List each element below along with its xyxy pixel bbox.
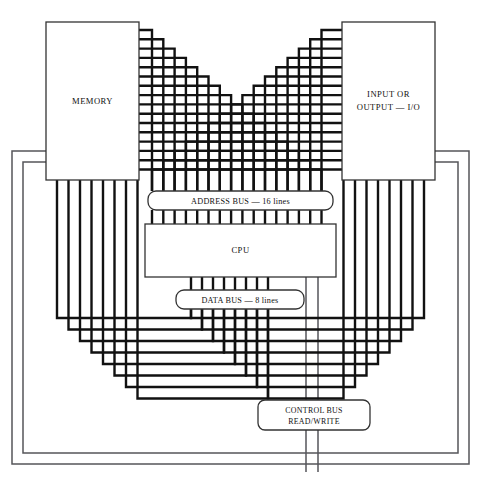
data-bus-bar[interactable]: DATA BUS — 8 lines: [176, 290, 304, 309]
io-block-box: [342, 22, 435, 180]
cpu-block[interactable]: CPU: [145, 224, 336, 277]
cpu-block-label: CPU: [231, 245, 250, 255]
memory-block-label: MEMORY: [72, 96, 113, 106]
control-bus-label-line2: READ/WRITE: [288, 417, 340, 426]
bus-architecture-diagram: MEMORY INPUT OR OUTPUT — I/O ADDRESS BUS…: [0, 0, 481, 483]
diagram-canvas: MEMORY INPUT OR OUTPUT — I/O ADDRESS BUS…: [0, 0, 481, 483]
address-bus-label: ADDRESS BUS — 16 lines: [191, 197, 290, 206]
io-block[interactable]: INPUT OR OUTPUT — I/O: [342, 22, 435, 180]
io-block-label-line2: OUTPUT — I/O: [357, 102, 421, 112]
memory-block[interactable]: MEMORY: [46, 22, 139, 180]
data-bus-label: DATA BUS — 8 lines: [201, 296, 278, 305]
control-bus-label-line1: CONTROL BUS: [285, 406, 343, 415]
control-bus-bar[interactable]: CONTROL BUS READ/WRITE: [258, 400, 370, 430]
io-block-label-line1: INPUT OR: [367, 89, 410, 99]
address-bus-bar[interactable]: ADDRESS BUS — 16 lines: [148, 191, 333, 210]
